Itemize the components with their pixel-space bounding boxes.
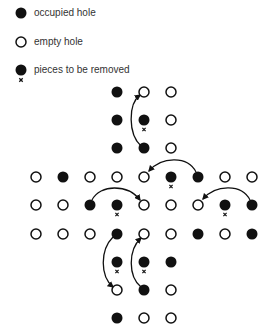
occupied-hole-icon [193,172,204,183]
occupied-hole-icon [58,172,69,183]
empty-hole-icon [166,285,176,295]
occupied-hole-icon [193,229,204,240]
empty-hole-icon [112,172,122,182]
legend-empty-label: empty hole [34,36,83,48]
empty-hole-icon [139,229,149,239]
empty-hole-icon [58,200,68,210]
occupied-hole-icon [112,115,123,126]
empty-hole-icon [166,200,176,210]
empty-hole-icon [193,200,203,210]
legend-removed-label: pieces to be removed [34,64,130,76]
removed-piece-icon [16,65,27,82]
occupied-hole-icon [247,200,258,211]
empty-hole-icon [220,172,230,182]
move-arrow-icon [149,160,196,172]
empty-hole-icon [31,229,41,239]
occupied-hole-icon [247,229,258,240]
legend-icons [16,8,27,82]
empty-hole-icon [166,229,176,239]
board-holes [31,87,258,324]
occupied-hole-icon [112,313,123,324]
empty-hole-icon [166,115,176,125]
occupied-hole-icon [16,8,27,19]
removed-piece-icon [139,257,150,274]
empty-hole-icon [85,172,95,182]
removed-piece-icon [112,200,123,217]
empty-hole-icon [139,87,149,97]
move-arrow-icon [92,188,140,200]
empty-hole-icon [220,229,230,239]
empty-hole-icon [112,285,122,295]
empty-hole-icon [166,143,176,153]
empty-hole-icon [247,172,257,182]
empty-hole-icon [31,200,41,210]
empty-hole-icon [166,313,176,323]
occupied-hole-icon [112,143,123,154]
occupied-hole-icon [112,229,123,240]
empty-hole-icon [58,229,68,239]
occupied-hole-icon [85,200,96,211]
empty-hole-icon [166,87,176,97]
move-arrow-icon [203,188,250,200]
empty-hole-icon [85,229,95,239]
empty-hole-icon [139,200,149,210]
occupied-hole-icon [139,143,150,154]
removed-piece-icon [220,200,231,217]
empty-hole-icon [16,37,26,47]
removed-piece-icon [166,172,177,189]
empty-hole-icon [139,313,149,323]
legend-occupied-label: occupied hole [34,7,96,19]
occupied-hole-icon [139,285,150,296]
empty-hole-icon [31,172,41,182]
occupied-hole-icon [112,87,123,98]
occupied-hole-icon [166,257,177,268]
removed-piece-icon [139,115,150,132]
removed-piece-icon [112,257,123,274]
peg-solitaire-diagram: occupied hole empty hole pieces to be re… [0,0,268,331]
board-canvas [0,0,268,331]
empty-hole-icon [139,172,149,182]
